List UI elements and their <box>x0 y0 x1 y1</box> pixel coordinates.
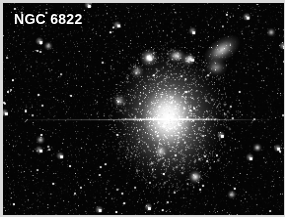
figure-frame: NGC 6822 <box>0 0 285 217</box>
sky-image: NGC 6822 <box>3 3 284 215</box>
object-name-label: NGC 6822 <box>14 12 83 27</box>
starfield-canvas <box>3 3 284 215</box>
